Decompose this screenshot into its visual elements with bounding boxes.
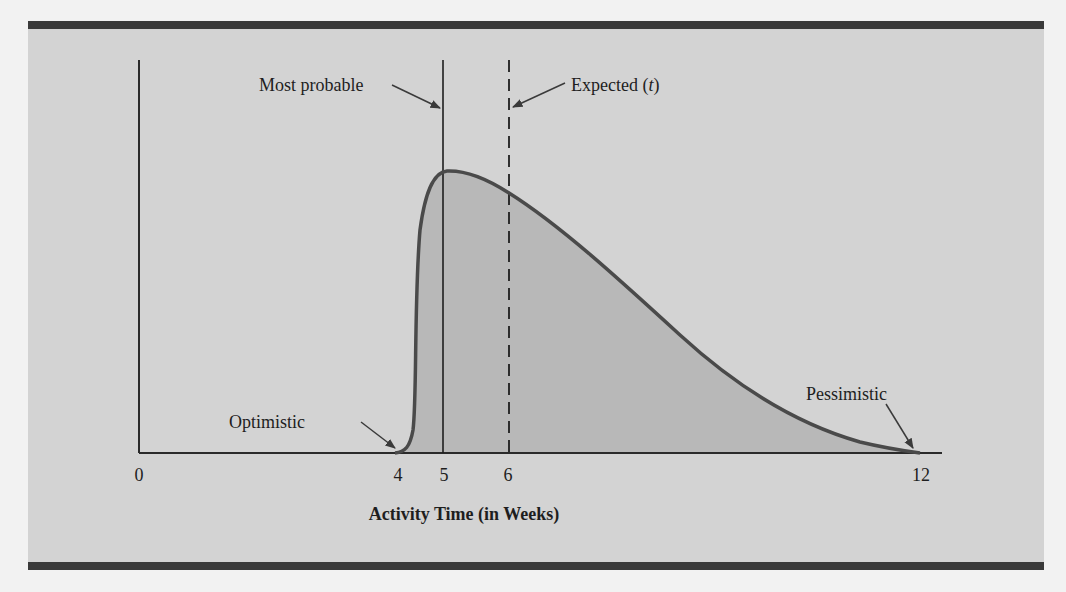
x-axis-title: Activity Time (in Weeks)	[369, 504, 560, 525]
x-tick-4: 4	[394, 465, 403, 485]
x-tick-12: 12	[912, 465, 930, 485]
most-probable-arrow	[392, 85, 440, 108]
optimistic-label: Optimistic	[229, 412, 305, 432]
pessimistic-arrow	[886, 404, 913, 448]
chart-canvas: Most probable Expected (t) Optimistic Pe…	[0, 0, 1066, 592]
optimistic-arrow	[361, 422, 395, 448]
most-probable-label: Most probable	[259, 75, 363, 95]
expected-label: Expected (t)	[571, 75, 659, 96]
x-tick-6: 6	[504, 465, 513, 485]
x-tick-5: 5	[440, 465, 449, 485]
expected-arrow	[513, 83, 565, 107]
x-tick-0: 0	[135, 465, 144, 485]
pessimistic-label: Pessimistic	[806, 384, 887, 404]
distribution-area	[395, 171, 920, 453]
